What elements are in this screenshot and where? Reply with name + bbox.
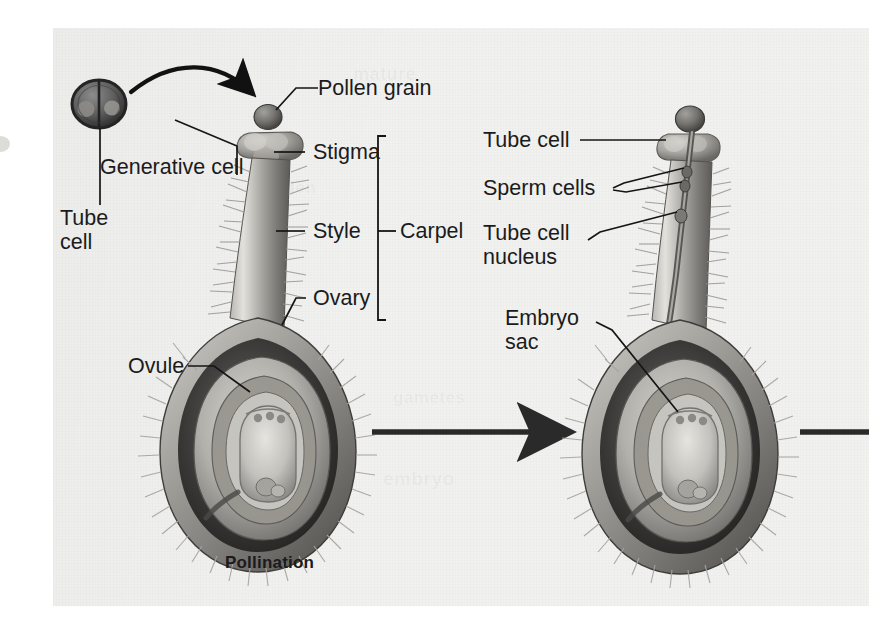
pollen-grain-detached bbox=[72, 80, 126, 128]
label-carpel: Carpel bbox=[400, 219, 463, 243]
label-tube-cell-left: Tube cell bbox=[60, 206, 108, 254]
label-tube-cell-nucleus: Tube cell nucleus bbox=[483, 221, 569, 269]
label-tube-cell-right: Tube cell bbox=[483, 128, 569, 152]
label-style: Style bbox=[313, 219, 361, 243]
label-generative-cell: Generative cell bbox=[100, 155, 243, 179]
pollen-on-stigma-right bbox=[676, 106, 705, 132]
label-embryo-sac: Embryo sac bbox=[505, 306, 579, 354]
figure-root: mature pollen gametes embryo bbox=[0, 0, 869, 630]
leader-pollen-grain bbox=[276, 88, 318, 110]
style-left bbox=[230, 158, 290, 330]
caption-pollination: Pollination bbox=[225, 551, 314, 575]
label-stigma: Stigma bbox=[313, 140, 380, 164]
label-ovary: Ovary bbox=[313, 286, 370, 310]
pollen-transfer-arrow bbox=[131, 67, 252, 93]
label-ovule: Ovule bbox=[128, 354, 184, 378]
embryo-sac-right bbox=[662, 408, 718, 504]
carpel-bracket bbox=[378, 136, 396, 320]
label-pollen-grain: Pollen grain bbox=[318, 76, 432, 100]
label-sperm-cells: Sperm cells bbox=[483, 176, 595, 200]
embryo-sac-left bbox=[240, 406, 296, 502]
diagram-artwork bbox=[0, 0, 869, 630]
tube-cell-nucleus-right bbox=[675, 209, 687, 223]
